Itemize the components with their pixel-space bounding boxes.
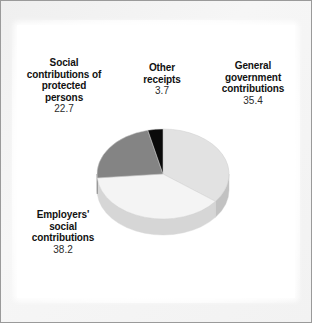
slice-label-line: General <box>203 60 303 72</box>
slice-label-line: contributions <box>203 83 303 95</box>
slice-label-line: contributions of <box>10 69 118 81</box>
slice-label-line: receipts <box>126 74 198 86</box>
pie-chart-svg <box>90 104 236 256</box>
slice-label-line: government <box>203 72 303 84</box>
slice-label-line: persons <box>10 92 118 104</box>
slice-label-other-receipts: Other receipts 3.7 <box>126 62 198 97</box>
slice-label-line: protected <box>10 80 118 92</box>
slice-label-line: Social <box>10 57 118 69</box>
pie-top-faces <box>97 129 229 219</box>
pie-chart-screenshot: Social contributions of protected person… <box>0 0 312 323</box>
slice-label-general-government: General government contributions 35.4 <box>203 60 303 106</box>
slice-value: 3.7 <box>126 85 198 97</box>
slice-label-line: Other <box>126 62 198 74</box>
pie-chart <box>90 104 236 256</box>
